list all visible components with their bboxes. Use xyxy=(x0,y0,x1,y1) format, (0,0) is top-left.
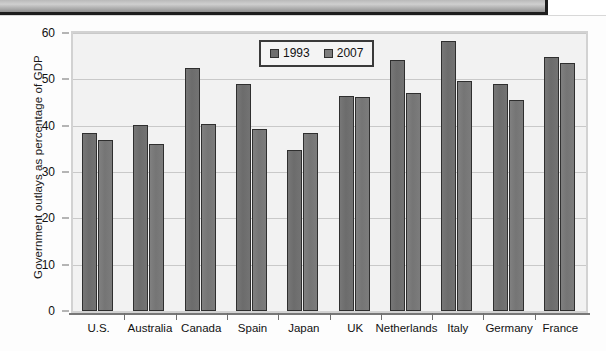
legend-swatch-icon-1993 xyxy=(270,49,279,58)
legend-label-1993: 1993 xyxy=(283,46,310,60)
legend-label-2007: 2007 xyxy=(337,46,364,60)
gridline xyxy=(73,79,586,80)
x-tick-mark xyxy=(176,313,177,320)
bar-spain-2007 xyxy=(252,129,267,311)
bar-germany-2007 xyxy=(509,100,524,311)
bar-japan-1993 xyxy=(287,150,302,311)
y-tick-mark xyxy=(62,264,69,265)
x-tick-mark xyxy=(483,313,484,320)
y-tick-mark xyxy=(62,311,69,312)
x-tick-mark xyxy=(432,313,433,320)
legend-entry-2007: 2007 xyxy=(324,46,364,60)
bar-chart-figure: Government outlays as percentage of GDP … xyxy=(0,16,606,351)
x-axis-label-netherlands: Netherlands xyxy=(375,322,437,334)
y-tick-mark xyxy=(62,33,69,34)
x-axis-label-italy: Italy xyxy=(447,322,468,334)
bar-uk-1993 xyxy=(339,96,354,311)
x-tick-mark xyxy=(124,313,125,320)
bar-france-1993 xyxy=(544,57,559,311)
x-axis-label-canada: Canada xyxy=(181,322,221,334)
bar-australia-1993 xyxy=(133,125,148,311)
x-axis-label-us: U.S. xyxy=(87,322,109,334)
y-tick-label: 40 xyxy=(15,119,55,133)
bar-canada-1993 xyxy=(185,68,200,311)
y-tick-label: 10 xyxy=(15,258,55,272)
legend-entry-1993: 1993 xyxy=(270,46,310,60)
x-axis-label-australia: Australia xyxy=(128,322,173,334)
x-axis-label-spain: Spain xyxy=(238,322,267,334)
bar-us-1993 xyxy=(82,133,97,311)
bar-japan-2007 xyxy=(303,133,318,311)
y-tick-mark xyxy=(62,79,69,80)
x-tick-mark xyxy=(381,313,382,320)
y-tick-label: 50 xyxy=(15,72,55,86)
x-axis-label-france: France xyxy=(542,322,578,334)
x-axis-label-uk: UK xyxy=(347,322,363,334)
y-tick-mark xyxy=(62,125,69,126)
gridline xyxy=(73,33,586,34)
bar-uk-2007 xyxy=(355,97,370,311)
legend-swatch-icon-2007 xyxy=(324,49,333,58)
bar-australia-2007 xyxy=(149,144,164,311)
y-tick-mark xyxy=(62,172,69,173)
x-tick-mark xyxy=(535,313,536,320)
bar-italy-2007 xyxy=(457,81,472,311)
x-axis-label-germany: Germany xyxy=(485,322,532,334)
bar-us-2007 xyxy=(98,140,113,311)
y-tick-label: 60 xyxy=(15,26,55,40)
plot-inner xyxy=(73,33,586,311)
bar-germany-1993 xyxy=(493,84,508,311)
y-tick-label: 0 xyxy=(15,304,55,318)
bar-canada-2007 xyxy=(201,124,216,311)
y-tick-label: 30 xyxy=(15,165,55,179)
chart-legend: 1993 2007 xyxy=(259,40,374,67)
bar-italy-1993 xyxy=(441,41,456,311)
x-tick-mark xyxy=(227,313,228,320)
bar-france-2007 xyxy=(560,63,575,311)
bar-spain-1993 xyxy=(236,84,251,311)
x-tick-mark xyxy=(278,313,279,320)
bar-netherlands-1993 xyxy=(390,60,405,311)
bar-netherlands-2007 xyxy=(406,93,421,311)
x-axis-label-japan: Japan xyxy=(288,322,319,334)
y-tick-label: 20 xyxy=(15,211,55,225)
y-tick-mark xyxy=(62,218,69,219)
x-tick-mark xyxy=(330,313,331,320)
header-banner-strip xyxy=(0,0,548,15)
plot-area xyxy=(71,31,588,313)
